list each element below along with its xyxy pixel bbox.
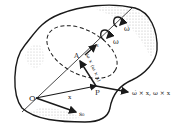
shading-left bbox=[25, 44, 44, 68]
tangential-label: ω̇ × x, ω × x bbox=[132, 89, 171, 96]
s0-label: s₀ bbox=[79, 110, 85, 117]
omega-loop-icon bbox=[101, 30, 109, 40]
x-vector bbox=[36, 86, 96, 98]
centripetal-label: ω × (ω × x) bbox=[85, 53, 103, 83]
rigid-body-diagram: O A P x s₀ s ω ω̇ ω × (ω × x) ω̇ × x, ω … bbox=[0, 0, 191, 137]
point-a-label: A bbox=[73, 52, 80, 60]
x-vector-label: x bbox=[68, 93, 72, 100]
omega-label: ω bbox=[113, 38, 119, 46]
s-axis-label: s bbox=[96, 42, 99, 48]
tangential-vector bbox=[96, 86, 128, 92]
omega-dot-label: ω̇ bbox=[124, 25, 130, 33]
point-o-label: O bbox=[29, 94, 36, 103]
point-p-label: P bbox=[95, 89, 100, 97]
